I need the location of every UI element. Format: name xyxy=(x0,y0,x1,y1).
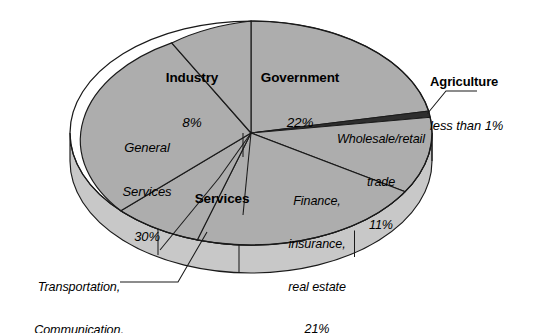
slice-label-transportation-communication-public-utilities: Transportation, Communication, Public ut… xyxy=(8,252,150,333)
slice-label-general-line1: General xyxy=(95,141,199,156)
group-label-services: Services xyxy=(182,160,262,236)
slice-label-agriculture: Agriculture less than 1% xyxy=(430,46,530,164)
slice-label-agriculture-value: less than 1% xyxy=(430,119,530,134)
pie-chart: Industry 8% Government 22% Agriculture l… xyxy=(0,0,533,333)
slice-label-agriculture-name: Agriculture xyxy=(430,75,530,90)
slice-label-finance-line2: insurance, xyxy=(262,237,372,251)
slice-label-finance-line3: real estate xyxy=(262,280,372,294)
slice-label-finance-value: 21% xyxy=(262,322,372,333)
slice-label-government-name: Government xyxy=(246,70,354,85)
slice-label-wholesale-line1: Wholesale/retail xyxy=(322,132,440,146)
group-label-services-name: Services xyxy=(182,191,262,206)
slice-label-transport-line1: Transportation, xyxy=(8,280,150,294)
slice-label-industry-name: Industry xyxy=(146,70,238,85)
slice-label-finance-line1: Finance, xyxy=(262,194,372,208)
slice-label-finance-insurance-real-estate: Finance, insurance, real estate 21% xyxy=(262,166,372,333)
slice-label-transport-line2: Communication, xyxy=(8,323,150,333)
